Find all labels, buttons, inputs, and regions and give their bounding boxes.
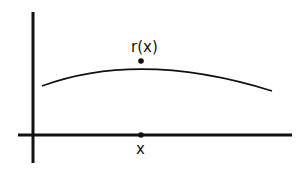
- curve-point-label: r(x): [131, 40, 158, 55]
- axis-point-label: x: [136, 142, 145, 157]
- diagram-canvas: [0, 0, 306, 170]
- curve-point-dot: [138, 58, 144, 64]
- curve-r: [42, 69, 272, 91]
- axis-point-dot: [138, 132, 144, 138]
